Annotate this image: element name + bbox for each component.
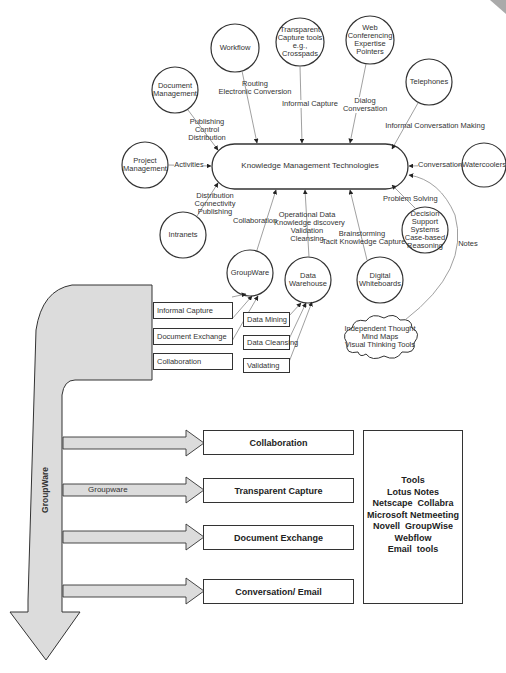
node-project-management-label: Project Management [122,142,168,188]
tool-item: Email tools [364,544,462,556]
node-groupware-label: GroupWare [227,250,273,296]
edge-label-document-management: Publishing Control Distribution [187,118,227,142]
output-box-conversation-email: Conversation/ Email [203,579,354,604]
edge-label-transparent-capture: Informal Capture [282,100,322,108]
tool-item: Lotus Notes [364,487,462,499]
edge-label-watercoolers: Conversation [418,161,458,169]
edge-label-decision-support: Problem Solving [383,195,431,203]
node-decision-support-label: Decision Support Systems Case-based Reas… [402,207,448,253]
edge-label-workflow: Routing Electronic Conversion [215,80,295,96]
node-digital-whiteboards-label: Digital Whiteboards [357,257,403,303]
arrow-label-groupware: Groupware [88,486,128,494]
tool-item: Netscape Collabra [364,498,462,510]
center-label: Knowledge Management Technologies [212,162,408,170]
output-box-collaboration: Collaboration [203,430,354,455]
edge-label-groupware: Collaboration [233,217,277,225]
tool-item: Webflow [364,533,462,545]
warehouse-input-box: Data Cleansing [243,335,290,350]
output-box-transparent-capture: Transparent Capture [203,478,354,503]
edge-label-web-conferencing: Dialog Conversation [340,97,390,113]
tool-item: Microsoft Netmeeting [364,510,462,522]
output-arrows [63,430,204,604]
tools-title: Tools [364,475,462,487]
node-web-conferencing-label: Web Conferencing Expertise Pointers [346,16,394,64]
groupware-band [10,285,152,660]
groupware-input-box: Document Exchange [153,328,233,345]
node-intranets-label: Intranets [160,212,206,258]
edge-label-independent-thought: Notes [456,240,480,248]
warehouse-input-box: Validating [243,358,290,373]
groupware-input-box: Collaboration [153,353,233,370]
tools-box: Tools Lotus Notes Netscape Collabra Micr… [363,430,463,604]
node-telephones-label: Telephones [406,59,452,105]
node-workflow-label: Workflow [211,24,259,72]
groupware-input-box: Informal Capture [153,302,233,319]
edge-label-project-management: Activities [174,161,204,169]
node-watercoolers-label: Watercoolers [462,143,506,187]
warehouse-input-box: Data Mining [243,312,290,327]
edge-label-telephones: Informal Conversation Making [380,122,490,130]
node-independent-thought-label: Independent Thought Mind Maps Visual Thi… [345,322,415,352]
output-box-document-exchange: Document Exchange [203,525,354,550]
edge-label-digital-whiteboards: Brainstorming Tacit Knowledge Capture [322,230,402,246]
edge-label-intranets: Distribution Connectivity Publishing [193,192,237,216]
node-data-warehouse-label: Data Warehouse [285,257,331,303]
node-transparent-capture-label: Transparent Capture tools e.g., Crosspad… [276,18,324,66]
page-corner-shadow [490,0,506,14]
node-document-management-label: Document Management [152,67,198,113]
tool-item: Novell GroupWise [364,521,462,533]
band-vertical-label: GroupWare [40,465,50,515]
